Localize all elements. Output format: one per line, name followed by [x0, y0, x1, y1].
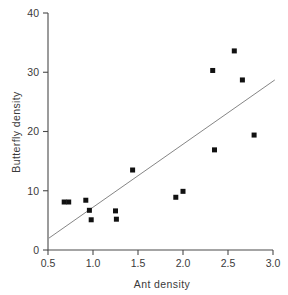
data-point	[210, 68, 215, 73]
y-tick-labels: 010203040	[27, 7, 39, 256]
x-axis-label: Ant density	[134, 278, 191, 290]
data-point	[181, 189, 186, 194]
data-point	[212, 147, 217, 152]
data-point	[114, 217, 119, 222]
data-points	[62, 48, 257, 222]
data-point	[113, 208, 118, 213]
y-tick-label: 0	[33, 244, 39, 256]
y-tick-label: 20	[27, 125, 39, 137]
y-tick-label: 30	[27, 66, 39, 78]
x-tick-label: 1.5	[131, 257, 146, 269]
data-point	[87, 208, 92, 213]
x-tick-label: 3.0	[266, 257, 281, 269]
data-point	[173, 195, 178, 200]
axes	[48, 13, 273, 250]
data-point	[89, 217, 94, 222]
scatter-chart: 0.51.01.52.02.53.0 010203040 Ant density…	[0, 0, 288, 295]
data-point	[83, 198, 88, 203]
tick-marks	[43, 13, 273, 255]
y-tick-label: 10	[27, 185, 39, 197]
data-point	[240, 77, 245, 82]
data-point	[130, 168, 135, 173]
x-tick-label: 2.5	[221, 257, 236, 269]
x-tick-labels: 0.51.01.52.02.53.0	[41, 257, 281, 269]
data-point	[232, 48, 237, 53]
y-axis-label: Butterfly density	[10, 91, 22, 173]
chart-canvas: 0.51.01.52.02.53.0 010203040 Ant density…	[0, 0, 288, 295]
data-point	[66, 200, 71, 205]
x-tick-label: 1.0	[86, 257, 101, 269]
x-tick-label: 2.0	[176, 257, 191, 269]
y-tick-label: 40	[27, 7, 39, 19]
x-tick-label: 0.5	[41, 257, 56, 269]
data-point	[252, 133, 257, 138]
data-point	[62, 200, 67, 205]
trend-line	[49, 80, 275, 238]
